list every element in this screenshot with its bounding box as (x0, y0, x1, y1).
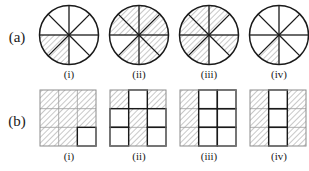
fraction-shading-diagram: (a) (i) (ii) (iii) (iv) (b) (0, 0, 309, 171)
row-a-figures: (i) (ii) (iii) (iv) (34, 2, 309, 80)
circle-figure-iii: (iii) (174, 2, 244, 80)
square-caption-i: (i) (64, 151, 74, 162)
diagram-row-a: (a) (i) (ii) (iii) (iv) (0, 2, 309, 86)
diagram-row-b: (b) (i) (ii) (iii) (iv) (0, 88, 309, 171)
square-figure-iv: (iv) (244, 88, 309, 162)
square-diagram-iii (178, 88, 240, 150)
circle-diagram-iii (176, 2, 242, 68)
row-label-a: (a) (0, 2, 34, 45)
circle-figure-i: (i) (34, 2, 104, 80)
row-label-b: (b) (0, 88, 34, 129)
square-caption-iii: (iii) (201, 151, 218, 162)
square-diagram-iv (248, 88, 309, 150)
circle-figure-iv: (iv) (244, 2, 309, 80)
circle-caption-iii: (iii) (201, 69, 218, 80)
circle-figure-ii: (ii) (104, 2, 174, 80)
circle-caption-i: (i) (64, 69, 74, 80)
square-caption-ii: (ii) (132, 151, 145, 162)
circle-diagram-i (36, 2, 102, 68)
square-figure-i: (i) (34, 88, 104, 162)
square-figure-ii: (ii) (104, 88, 174, 162)
square-diagram-ii (108, 88, 170, 150)
row-b-figures: (i) (ii) (iii) (iv) (34, 88, 309, 162)
square-diagram-i (38, 88, 100, 150)
square-figure-iii: (iii) (174, 88, 244, 162)
circle-caption-ii: (ii) (132, 69, 145, 80)
circle-diagram-iv (246, 2, 309, 68)
square-caption-iv: (iv) (271, 151, 287, 162)
circle-diagram-ii (106, 2, 172, 68)
circle-caption-iv: (iv) (271, 69, 287, 80)
